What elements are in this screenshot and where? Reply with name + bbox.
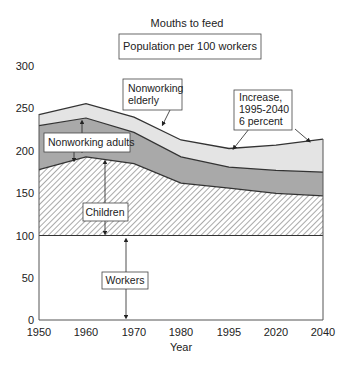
svg-text:Workers: Workers <box>106 274 145 286</box>
svg-text:0: 0 <box>28 314 34 326</box>
svg-text:Increase,: Increase, <box>239 91 282 103</box>
svg-text:100: 100 <box>16 230 34 242</box>
svg-text:250: 250 <box>16 102 34 114</box>
x-axis-title: Year <box>170 341 193 353</box>
y-axis-labels: 0 50 100 150 200 250 300 <box>16 60 34 326</box>
svg-text:1950: 1950 <box>27 326 51 338</box>
annotation-workers: Workers <box>102 240 148 317</box>
chart-subtitle: Population per 100 workers <box>123 40 257 52</box>
svg-text:Nonworking: Nonworking <box>128 82 184 94</box>
annotation-increase: Increase, 1995-2040 6 percent <box>234 90 309 148</box>
svg-text:2020: 2020 <box>264 326 288 338</box>
x-axis-labels: 1950 1960 1970 1980 1995 2020 2040 <box>27 326 335 338</box>
chart-title: Mouths to feed <box>151 17 224 29</box>
svg-text:2040: 2040 <box>311 326 335 338</box>
svg-text:1980: 1980 <box>169 326 193 338</box>
svg-text:Nonworking adults: Nonworking adults <box>48 136 134 148</box>
chart: Mouths to feed Population per 100 worker… <box>0 0 350 368</box>
svg-text:150: 150 <box>16 187 34 199</box>
svg-text:1970: 1970 <box>122 326 146 338</box>
svg-text:1995: 1995 <box>217 326 241 338</box>
svg-text:Children: Children <box>85 206 124 218</box>
svg-text:elderly: elderly <box>128 94 160 106</box>
svg-text:50: 50 <box>22 272 34 284</box>
svg-text:6 percent: 6 percent <box>239 115 283 127</box>
svg-text:300: 300 <box>16 60 34 72</box>
svg-text:1995-2040: 1995-2040 <box>239 103 289 115</box>
svg-text:200: 200 <box>16 145 34 157</box>
svg-text:1960: 1960 <box>74 326 98 338</box>
